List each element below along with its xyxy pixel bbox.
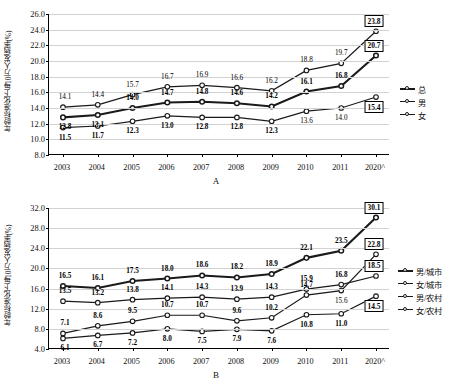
y-tick-mark bbox=[46, 14, 49, 15]
y-tick-mark bbox=[46, 268, 49, 269]
data-label: 15.4 bbox=[365, 101, 384, 113]
data-label: 19.7 bbox=[335, 49, 348, 57]
legend-item[interactable]: 男 bbox=[400, 95, 426, 108]
legend-label: 女 bbox=[418, 109, 426, 121]
data-label: 14.3 bbox=[265, 283, 278, 291]
data-point-marker bbox=[304, 68, 309, 73]
data-label: 14.0 bbox=[126, 94, 139, 102]
data-label: 18.6 bbox=[196, 261, 209, 269]
data-point-marker bbox=[61, 115, 66, 120]
data-label: 14.7 bbox=[300, 281, 313, 289]
y-tick-label: 18.0 bbox=[30, 72, 45, 81]
x-tick-label: 2009 bbox=[262, 357, 278, 366]
data-label: 14.5 bbox=[365, 300, 384, 312]
x-tick-mark bbox=[237, 348, 238, 351]
x-tick-label: 2008 bbox=[228, 163, 244, 172]
legend-item[interactable]: 女/农村 bbox=[398, 303, 442, 316]
y-tick-label: 24.0 bbox=[30, 25, 45, 34]
data-label: 6.1 bbox=[61, 344, 70, 352]
legend-item[interactable]: 男/农村 bbox=[398, 290, 442, 303]
data-label: 7.9 bbox=[232, 335, 241, 343]
data-label: 13.8 bbox=[126, 286, 139, 294]
data-label: 11.7 bbox=[92, 132, 104, 140]
y-tick-mark bbox=[46, 329, 49, 330]
data-point-marker bbox=[200, 273, 205, 278]
data-label: 18.0 bbox=[161, 265, 174, 273]
data-label: 22.1 bbox=[300, 244, 313, 252]
legend-label: 总 bbox=[418, 83, 426, 95]
data-point-marker bbox=[304, 293, 309, 298]
x-tick-label: 2007 bbox=[193, 163, 209, 172]
x-tick-mark bbox=[202, 154, 203, 157]
y-tick-mark bbox=[46, 124, 49, 125]
data-label: 8.6 bbox=[93, 312, 102, 320]
data-label: 12.3 bbox=[126, 127, 139, 135]
data-label: 16.7 bbox=[161, 73, 174, 81]
x-tick-mark bbox=[272, 348, 273, 351]
series-line bbox=[63, 31, 376, 107]
legend-item[interactable]: 总 bbox=[400, 82, 426, 95]
data-label: 18.9 bbox=[265, 260, 278, 268]
data-point-marker bbox=[95, 333, 100, 338]
y-tick-label: 28.0 bbox=[30, 224, 45, 233]
data-point-marker bbox=[339, 311, 344, 316]
data-point-marker bbox=[61, 299, 66, 304]
data-label: 18.8 bbox=[300, 56, 313, 64]
data-label: 12.3 bbox=[265, 127, 278, 135]
data-label: 22.8 bbox=[365, 238, 384, 250]
x-tick-mark bbox=[98, 154, 99, 157]
data-point-marker bbox=[269, 295, 274, 300]
data-point-marker bbox=[95, 300, 100, 305]
y-axis-label-b: 年龄标准化下每10万人发病率(%) bbox=[1, 200, 15, 352]
data-point-marker bbox=[61, 331, 66, 336]
data-label: 14.2 bbox=[265, 92, 278, 100]
data-label: 14.1 bbox=[161, 284, 174, 292]
data-label: 7.1 bbox=[61, 319, 70, 327]
y-tick-label: 22.0 bbox=[30, 41, 45, 50]
y-tick-mark bbox=[46, 208, 49, 209]
data-label: 15.7 bbox=[126, 81, 139, 89]
legend-line-icon bbox=[398, 306, 413, 314]
gridline bbox=[49, 30, 389, 31]
data-label: 16.1 bbox=[300, 78, 313, 86]
x-tick-label: 2003 bbox=[54, 357, 70, 366]
data-label: 17.5 bbox=[126, 267, 139, 275]
data-label: 18.5 bbox=[365, 260, 384, 272]
x-tick-label: 2011 bbox=[332, 163, 348, 172]
data-point-marker bbox=[374, 95, 379, 100]
data-point-marker bbox=[374, 215, 379, 220]
x-tick-label: 2011 bbox=[332, 357, 348, 366]
x-tick-mark bbox=[63, 154, 64, 157]
data-label: 14.6 bbox=[231, 89, 244, 97]
y-tick-mark bbox=[46, 61, 49, 62]
data-label: 15.6 bbox=[335, 297, 348, 305]
legend-item[interactable]: 男/城市 bbox=[398, 264, 442, 277]
data-point-marker bbox=[130, 297, 135, 302]
data-point-marker bbox=[235, 297, 240, 302]
series-line bbox=[63, 254, 376, 333]
x-tick-label: 2020^ bbox=[365, 163, 385, 172]
x-tick-label: 2009 bbox=[262, 163, 278, 172]
legend-item[interactable]: 女 bbox=[400, 108, 426, 121]
legend-label: 女/农村 bbox=[416, 304, 442, 316]
legend-line-icon bbox=[400, 111, 415, 119]
data-point-marker bbox=[95, 324, 100, 329]
y-tick-mark bbox=[46, 30, 49, 31]
x-tick-label: 2007 bbox=[193, 357, 209, 366]
data-label: 7.2 bbox=[128, 339, 137, 347]
data-label: 20.7 bbox=[365, 40, 384, 52]
data-point-marker bbox=[200, 115, 205, 120]
data-label: 14.1 bbox=[59, 93, 72, 101]
data-point-marker bbox=[235, 319, 240, 324]
y-tick-mark bbox=[46, 92, 49, 93]
x-tick-mark bbox=[376, 348, 377, 351]
plot-a: 12.813.114.014.714.814.614.216.116.820.7… bbox=[48, 14, 389, 155]
gridline bbox=[49, 108, 389, 109]
data-point-marker bbox=[165, 313, 170, 318]
data-label: 30.1 bbox=[365, 202, 384, 214]
data-label: 14.7 bbox=[161, 89, 174, 97]
x-tick-label: 2008 bbox=[228, 357, 244, 366]
x-tick-mark bbox=[133, 348, 134, 351]
legend-item[interactable]: 女/城市 bbox=[398, 277, 442, 290]
data-point-marker bbox=[339, 282, 344, 287]
